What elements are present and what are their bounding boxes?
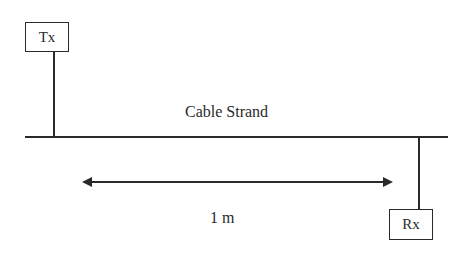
arrowhead-left-icon — [82, 177, 92, 187]
distance-label: 1 m — [210, 209, 234, 227]
arrowhead-right-icon — [383, 177, 393, 187]
